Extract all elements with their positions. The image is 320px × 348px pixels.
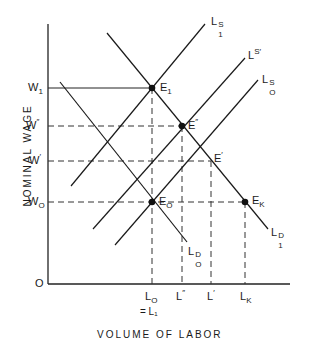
label-l1-demand: LD1 — [271, 227, 285, 238]
curve-l0-demand — [60, 82, 187, 242]
curve-l0-supply — [115, 80, 258, 245]
x-axis-title: VOLUME OF LABOR — [97, 329, 223, 340]
x-tick-l-double-prime: L″ — [176, 291, 185, 303]
x-tick-l-prime: L′ — [207, 291, 215, 303]
label-l0-demand: LDO — [188, 246, 202, 257]
x-tick-l0: LO — [145, 291, 157, 303]
point-e0-dot — [149, 199, 156, 206]
origin-label: O — [35, 278, 44, 289]
y-tick-w1: W1 — [28, 82, 43, 94]
label-l0-supply: LSO — [262, 74, 276, 85]
point-e1-dot — [149, 85, 156, 92]
label-point-e0: EO — [159, 196, 173, 208]
curve-l1-supply — [71, 24, 205, 186]
label-point-e-prime: E′ — [214, 153, 223, 165]
label-ls-prime-supply: LS′ — [248, 50, 261, 62]
label-point-e1: E1 — [160, 82, 172, 94]
y-tick-w-prime: W′ — [29, 155, 41, 167]
y-tick-w0: WO — [28, 196, 45, 208]
x-tick-lk: LK — [240, 291, 251, 303]
x-tick-l0-equals-l1: = L₁ — [140, 306, 158, 317]
point-ek-dot — [242, 199, 249, 206]
point-e-double-prime-dot — [179, 123, 186, 130]
label-point-e-double-prime: E″ — [188, 120, 198, 132]
label-point-ek: EK — [252, 195, 265, 207]
label-l1-supply: LS1 — [211, 16, 225, 27]
y-tick-w-double-prime: W″ — [26, 120, 39, 132]
